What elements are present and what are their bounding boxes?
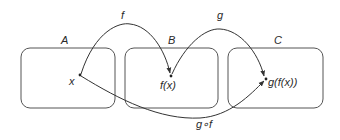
point-x — [79, 74, 82, 77]
arrow-g-label: g — [217, 9, 224, 21]
set-a-label: A — [60, 34, 68, 46]
point-gfx — [265, 78, 268, 81]
function-composition-diagram: A B C f g g∘f x f(x) g(f(x)) — [0, 0, 340, 140]
point-gfx-label: g(f(x)) — [268, 76, 298, 88]
point-fx-label: f(x) — [160, 79, 176, 91]
set-c-label: C — [274, 34, 282, 46]
set-b-box — [125, 48, 218, 108]
point-x-label: x — [68, 75, 75, 87]
set-b-label: B — [168, 34, 175, 46]
set-a-box — [21, 48, 115, 108]
arrow-f-label: f — [121, 9, 125, 21]
arrow-g-compose-f-label: g∘f — [196, 118, 213, 130]
point-fx — [170, 75, 173, 78]
